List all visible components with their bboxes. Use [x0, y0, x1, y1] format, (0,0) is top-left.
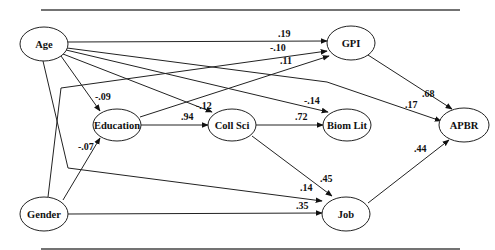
node-label: Coll Sci — [215, 120, 250, 131]
path-coefficient: -.09 — [95, 91, 111, 102]
path-coefficient: -.12 — [196, 100, 212, 111]
edge-education-to-gpi — [140, 56, 329, 117]
edge-job-to-apbr — [368, 140, 449, 203]
path-coefficient: .17 — [405, 99, 418, 110]
node-label: GPI — [342, 38, 361, 49]
node-biomlit: Biom Lit — [323, 109, 371, 141]
path-coefficient: .11 — [280, 55, 292, 66]
path-coefficient: .45 — [320, 173, 333, 184]
path-coefficient: .72 — [295, 111, 308, 122]
node-label: Job — [338, 209, 355, 220]
edge-age-to-job — [43, 61, 322, 201]
node-gpi: GPI — [327, 26, 375, 60]
node-gender: Gender — [20, 197, 68, 231]
node-label: Age — [35, 39, 53, 50]
path-coefficient: .68 — [422, 88, 435, 99]
path-coefficient: .14 — [300, 182, 313, 193]
path-coefficient: .44 — [414, 143, 427, 154]
path-coefficient: .19 — [278, 28, 291, 39]
nodes-layer: AgeGPIEducationColl SciBiom LitAPBRGende… — [20, 26, 489, 231]
path-diagram: AgeGPIEducationColl SciBiom LitAPBRGende… — [0, 0, 495, 250]
node-collsci: Coll Sci — [208, 109, 256, 141]
edge-age-to-coll-sci — [63, 54, 212, 112]
edge-gender-to-gpi — [48, 51, 327, 197]
path-coefficient: -.14 — [304, 95, 320, 106]
edge-coll-sci-to-job — [252, 136, 332, 196]
node-education: Education — [93, 109, 141, 141]
path-coefficient: -.07 — [78, 141, 94, 152]
edge-age-to-gpi — [68, 41, 327, 42]
node-label: Gender — [27, 209, 61, 220]
node-label: Education — [94, 120, 140, 131]
node-job: Job — [322, 197, 370, 231]
edge-gender-to-job — [68, 213, 322, 214]
node-apbr: APBR — [439, 108, 489, 142]
path-coefficient: -.10 — [270, 42, 286, 53]
path-coefficient: .35 — [296, 200, 309, 211]
node-age: Age — [20, 27, 68, 61]
path-coefficient: .94 — [181, 111, 194, 122]
node-label: Biom Lit — [327, 120, 367, 131]
node-label: APBR — [450, 120, 479, 131]
